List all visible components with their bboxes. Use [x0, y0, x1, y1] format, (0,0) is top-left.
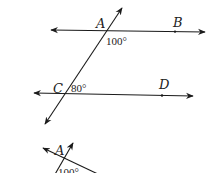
angle-c-label: 80° [71, 82, 86, 94]
angle-a-label: 100° [106, 35, 127, 47]
transversal-line [45, 8, 122, 124]
geometry-diagram: A B C D 100° 80° A 100° [0, 0, 214, 173]
line-ab [51, 30, 205, 32]
label-b: B [172, 15, 183, 30]
point-b-dot [174, 30, 176, 32]
fragment-label-a: A [54, 143, 64, 158]
fragment-angle-label: 100° [58, 166, 79, 173]
label-d: D [158, 77, 170, 92]
label-c: C [53, 81, 63, 96]
label-a: A [95, 16, 105, 31]
point-d-dot [161, 94, 163, 96]
